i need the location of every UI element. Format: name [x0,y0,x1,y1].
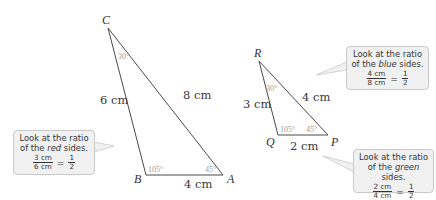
callout-line1: Look at the ratio [358,152,429,162]
side-ba-label: 4 cm [184,177,212,191]
red-callout-tail [94,142,114,152]
callout-line2: of the blue sides. [351,59,424,69]
callout-line2: of the red sides. [18,143,90,153]
angle-c-label: 30° [118,52,129,61]
ratio-fraction: 2 cm4 cm [373,183,393,200]
side-qp-label: 2 cm [290,139,318,153]
blue-sides-callout: Look at the ratio of the blue sides. 4 c… [346,46,429,90]
result-fraction: 12 [408,183,415,200]
green-callout-tail [323,156,354,172]
red-sides-callout: Look at the ratio of the red sides. 3 cm… [13,130,95,175]
ratio-fraction: 4 cm8 cm [367,70,387,87]
side-rq-label: 3 cm [243,97,271,111]
callout-color-word: blue [379,59,397,69]
callout-line1: Look at the ratio [351,49,424,59]
angle-q-label: 105° [280,125,295,134]
callout-color-word: red [47,143,61,153]
ratio-equation: 4 cm8 cm = 12 [351,70,424,87]
callout-line2: of the green sides. [358,162,429,182]
side-ca-label: 8 cm [183,88,211,102]
vertex-q-label: Q [266,135,275,149]
vertex-c-label: C [102,13,111,27]
vertex-r-label: R [253,46,262,60]
angle-b-label: 105° [148,165,163,174]
ratio-fraction: 3 cm6 cm [33,154,53,171]
side-cb-label: 6 cm [100,93,128,107]
callout-line1: Look at the ratio [18,133,90,143]
ratio-equation: 3 cm6 cm = 12 [18,154,90,171]
angle-r-label: 30° [266,84,277,93]
angle-a-label: 45° [205,165,216,174]
callout-color-word: green [395,162,419,172]
blue-callout-tail [316,62,347,75]
result-fraction: 12 [68,154,75,171]
vertex-p-label: P [330,135,339,149]
vertex-a-label: A [226,172,235,186]
green-sides-callout: Look at the ratio of the green sides. 2 … [353,149,434,193]
vertex-b-label: B [134,172,142,186]
side-rp-label: 4 cm [302,90,330,104]
ratio-equation: 2 cm4 cm = 12 [358,183,429,200]
result-fraction: 12 [402,70,409,87]
angle-p-label: 45° [306,125,317,134]
